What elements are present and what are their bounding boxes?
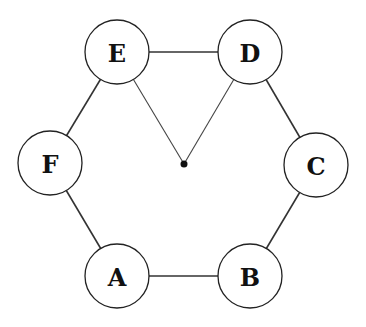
node-label: A: [107, 263, 127, 292]
node-b: B: [218, 244, 282, 308]
node-e: E: [85, 20, 149, 84]
node-a: A: [85, 244, 149, 308]
node-label: D: [240, 39, 261, 68]
node-f: F: [18, 131, 82, 195]
node-label: C: [306, 152, 325, 181]
node-c: C: [284, 133, 348, 197]
node-label: E: [108, 39, 126, 68]
node-d: D: [218, 20, 282, 84]
center-point: [181, 161, 188, 168]
node-label: B: [240, 263, 260, 292]
hexagon-graph-diagram: ABCDEF: [0, 0, 366, 327]
node-label: F: [41, 150, 58, 179]
